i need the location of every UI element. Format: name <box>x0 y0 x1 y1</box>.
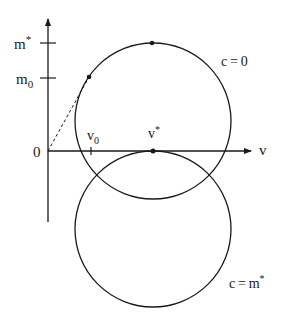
label-c-0: c = 0 <box>221 54 248 69</box>
dashed-tangent-line <box>48 77 89 151</box>
label-v0: v0 <box>87 128 99 146</box>
label-origin: 0 <box>33 144 41 160</box>
circle-c-m-star <box>75 151 231 307</box>
point-top <box>150 41 155 46</box>
label-m-star: m* <box>14 33 31 52</box>
label-m0: m0 <box>16 71 34 90</box>
label-v-axis: v <box>259 142 267 158</box>
point-m0 <box>87 75 92 80</box>
label-c-m-star: c = m* <box>229 273 265 291</box>
circle-c-0 <box>75 43 231 199</box>
label-v-star: v* <box>148 124 160 141</box>
diagram-canvas: m* m0 0 v0 v* v c = 0 c = m* <box>0 0 283 319</box>
point-v-star <box>151 149 156 154</box>
